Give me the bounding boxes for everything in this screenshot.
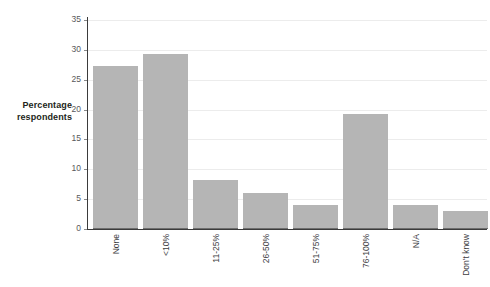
bar[interactable] [243,193,288,229]
y-axis-tick-labels: 35302520151050 [55,0,81,287]
bar[interactable] [143,54,188,229]
x-axis-label-slot: Don't know [443,231,488,287]
x-axis-label-slot: 11-25% [193,231,238,287]
y-axis-tick-label: 25 [57,75,81,84]
bar[interactable] [293,205,338,229]
x-axis-category-label: 26-50% [261,234,270,263]
x-axis-label-slot: 51-75% [293,231,338,287]
bar[interactable] [193,180,238,229]
x-axis-category-label: Don't know [461,234,470,276]
x-axis-category-label: 11-25% [211,234,220,263]
x-axis-label-slot: <10% [143,231,188,287]
x-axis-category-label: 76-100% [361,234,370,268]
x-axis-category-label: None [111,234,120,254]
bar-slot [343,20,388,229]
bar[interactable] [93,66,138,229]
bar-slot [93,20,138,229]
bar[interactable] [343,114,388,229]
y-axis-tick-label: 30 [57,45,81,54]
y-axis-tick-label: 0 [57,224,81,233]
bar-chart: Percentage respondents 35302520151050 No… [0,0,490,287]
y-axis-tick-label: 10 [57,164,81,173]
bar[interactable] [443,211,488,229]
x-axis-label-slot: None [93,231,138,287]
x-axis-category-labels: None<10%11-25%26-50%51-75%76-100%N/ADon'… [88,231,487,287]
y-axis-tick-label: 5 [57,194,81,203]
y-axis-tick-label: 20 [57,105,81,114]
bar-slot [143,20,188,229]
bar-slot [293,20,338,229]
bar-slot [193,20,238,229]
bar-slot [243,20,288,229]
x-axis-category-label: 51-75% [311,234,320,263]
y-axis-tick-label: 35 [57,15,81,24]
x-axis-category-label: <10% [161,234,170,256]
y-axis-tick-label: 15 [57,134,81,143]
x-axis-label-slot: 26-50% [243,231,288,287]
y-axis-line [87,17,88,230]
x-axis-label-slot: N/A [393,231,438,287]
x-axis-category-label: N/A [411,234,420,248]
x-axis-label-slot: 76-100% [343,231,388,287]
bar-slot [443,20,488,229]
bar-slot [393,20,438,229]
bar[interactable] [393,205,438,229]
plot-area [88,20,487,229]
